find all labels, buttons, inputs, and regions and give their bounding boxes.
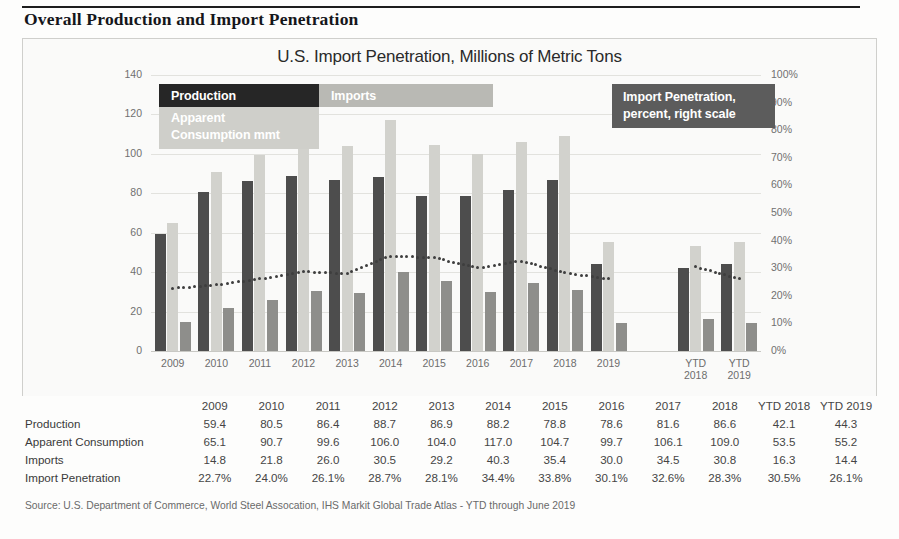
penetration-line-dot <box>193 285 196 288</box>
penetration-line-dot <box>395 255 398 258</box>
bar-imports <box>180 322 191 351</box>
table-cell: 32.6% <box>640 468 697 486</box>
penetration-line-dot <box>199 285 202 288</box>
bar-imports <box>441 281 452 351</box>
x-axis-label-2017: 2017 <box>500 358 544 370</box>
table-cell: 88.2 <box>470 414 527 432</box>
x-axis-label-2011: 2011 <box>238 358 282 370</box>
penetration-line-dot <box>733 276 736 279</box>
bar-production <box>503 190 514 351</box>
chart-card: U.S. Import Penetration, Millions of Met… <box>22 38 877 396</box>
bar-apparent-consumption <box>559 136 570 351</box>
y-axis-tick-120: 120 <box>124 107 142 119</box>
legend-imports-label: Imports <box>331 89 376 103</box>
bar-production <box>286 176 297 351</box>
table-cell: 40.3 <box>470 450 527 468</box>
bar-imports <box>354 293 365 351</box>
penetration-line-dot <box>467 264 470 267</box>
bar-imports <box>616 323 627 351</box>
penetration-line-dot <box>498 263 501 266</box>
penetration-line-dot <box>559 270 562 273</box>
penetration-line-dot <box>493 264 496 267</box>
y2-axis-tick-60: 60% <box>771 178 792 190</box>
table-header-row: 2009201020112012201320142015201620172018… <box>22 396 877 414</box>
x-axis-label-2013: 2013 <box>325 358 369 370</box>
table-column-header: 2018 <box>696 396 753 414</box>
table-column-header: 2016 <box>583 396 640 414</box>
bar-group-2016 <box>460 75 496 351</box>
table-column-header: 2009 <box>186 396 243 414</box>
table-cell: 14.4 <box>815 450 877 468</box>
penetration-line-dot <box>188 286 191 289</box>
table-cell: 34.4% <box>470 468 527 486</box>
table-column-header: 2010 <box>243 396 300 414</box>
bar-apparent-consumption <box>385 120 396 351</box>
table-cell: 65.1 <box>186 432 243 450</box>
table-cell: 90.7 <box>243 432 300 450</box>
penetration-line-dot <box>275 275 278 278</box>
x-axis-label-2009: 2009 <box>151 358 195 370</box>
penetration-line-dot <box>530 262 533 265</box>
x-axis-label-YTD-2018: YTD 2018 <box>674 358 718 381</box>
table-column-header: 2014 <box>470 396 527 414</box>
y-axis-tick-60: 60 <box>130 226 142 238</box>
y-axis-tick-20: 20 <box>130 305 142 317</box>
penetration-line-dot <box>591 275 594 278</box>
penetration-line-dot <box>462 263 465 266</box>
bar-group-2014 <box>373 75 409 351</box>
y2-axis-tick-30: 30% <box>771 261 792 273</box>
y-axis-tick-80: 80 <box>130 186 142 198</box>
bar-production <box>155 234 166 351</box>
penetration-line-dot <box>728 275 731 278</box>
penetration-line-dot <box>389 255 392 258</box>
x-axis-label-2016: 2016 <box>456 358 500 370</box>
table-row-label: Production <box>22 414 186 432</box>
bar-production <box>373 177 384 351</box>
table-cell: 30.0 <box>583 450 640 468</box>
table-cell: 35.4 <box>526 450 583 468</box>
table-column-header: 2011 <box>300 396 357 414</box>
table-row: Production59.480.586.488.786.988.278.878… <box>22 414 877 432</box>
penetration-line-dot <box>365 264 368 267</box>
penetration-line-dot <box>248 279 251 282</box>
bar-group-2013 <box>329 75 365 351</box>
table-cell: 86.4 <box>300 414 357 432</box>
penetration-line-dot <box>457 262 460 265</box>
table-cell: 24.0% <box>243 468 300 486</box>
bar-apparent-consumption <box>690 246 701 351</box>
bar-group-2017 <box>503 75 539 351</box>
table-corner-cell <box>22 396 186 414</box>
table-cell: 106.0 <box>356 432 413 450</box>
y-axis-tick-140: 140 <box>124 68 142 80</box>
table-column-header: 2017 <box>640 396 697 414</box>
page-title: Overall Production and Import Penetratio… <box>24 9 359 30</box>
x-axis-label-2015: 2015 <box>412 358 456 370</box>
table-cell: 21.8 <box>243 450 300 468</box>
table-cell: 104.0 <box>413 432 470 450</box>
source-note: Source: U.S. Department of Commerce, Wor… <box>25 500 575 511</box>
table-cell: 16.3 <box>753 450 815 468</box>
bar-apparent-consumption <box>254 155 265 351</box>
penetration-line-dot <box>422 256 425 259</box>
x-axis-label-YTD-2019: YTD 2019 <box>717 358 761 381</box>
bar-group-2018 <box>547 75 583 351</box>
table-cell: 80.5 <box>243 414 300 432</box>
x-axis-label-2018: 2018 <box>543 358 587 370</box>
table-cell: 99.7 <box>583 432 640 450</box>
bar-imports <box>528 283 539 351</box>
penetration-line-dot <box>580 274 583 277</box>
table-cell: 30.5 <box>356 450 413 468</box>
legend-import-penetration: Import Penetration, percent, right scale <box>612 84 775 128</box>
table-cell: 30.5% <box>753 468 815 486</box>
penetration-line-dot <box>324 271 327 274</box>
table-cell: 53.5 <box>753 432 815 450</box>
table-cell: 86.9 <box>413 414 470 432</box>
bar-production <box>678 268 689 351</box>
penetration-line-dot <box>433 256 436 259</box>
table-cell: 106.1 <box>640 432 697 450</box>
penetration-line-dot <box>699 267 702 270</box>
table-cell: 55.2 <box>815 432 877 450</box>
penetration-line-dot <box>237 280 240 283</box>
table-cell: 28.3% <box>696 468 753 486</box>
table-row: Imports14.821.826.030.529.240.335.430.03… <box>22 450 877 468</box>
